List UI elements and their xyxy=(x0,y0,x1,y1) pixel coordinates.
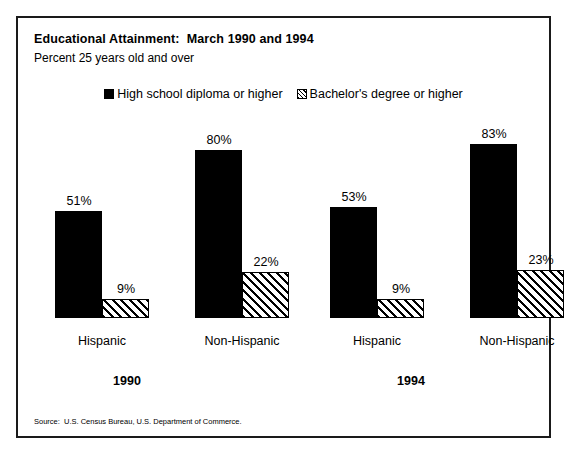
bar-1994-hispanic-highschool xyxy=(330,207,377,318)
group-label-1990: 1990 xyxy=(62,374,192,388)
bar-1990-hispanic-bachelors xyxy=(102,299,149,318)
category-label-1994-nonhispanic: Non-Hispanic xyxy=(452,334,569,348)
bar-value-1994-hispanic-highschool: 53% xyxy=(319,190,389,204)
group-label-1994: 1994 xyxy=(346,374,476,388)
chart-source-note: Source: U.S. Census Bureau, U.S. Departm… xyxy=(34,417,242,426)
bar-value-1994-hispanic-bachelors: 9% xyxy=(366,282,436,296)
category-label-1990-hispanic: Hispanic xyxy=(37,334,167,348)
bar-1994-nonhispanic-bachelors xyxy=(517,270,564,318)
plot-area: 51% 9% Hispanic 80% 22% Non-Hispanic 53%… xyxy=(18,18,549,436)
bar-1990-hispanic-highschool xyxy=(55,211,102,318)
category-label-1994-hispanic: Hispanic xyxy=(312,334,442,348)
bar-value-1994-nonhispanic-highschool: 83% xyxy=(459,127,529,141)
bar-value-1990-hispanic-bachelors: 9% xyxy=(91,282,161,296)
bar-value-1990-nonhispanic-highschool: 80% xyxy=(184,133,254,147)
bar-1994-nonhispanic-highschool xyxy=(470,144,517,318)
chart-frame: Educational Attainment: March 1990 and 1… xyxy=(16,16,551,438)
bar-value-1990-hispanic-highschool: 51% xyxy=(44,194,114,208)
bar-value-1990-nonhispanic-bachelors: 22% xyxy=(231,255,301,269)
bar-value-1994-nonhispanic-bachelors: 23% xyxy=(506,253,569,267)
category-label-1990-nonhispanic: Non-Hispanic xyxy=(177,334,307,348)
bar-group-1990-nonhispanic: 80% 22% Non-Hispanic xyxy=(180,18,310,436)
bar-1994-hispanic-bachelors xyxy=(377,299,424,318)
bar-1990-nonhispanic-bachelors xyxy=(242,272,289,318)
bar-1990-nonhispanic-highschool xyxy=(195,150,242,318)
